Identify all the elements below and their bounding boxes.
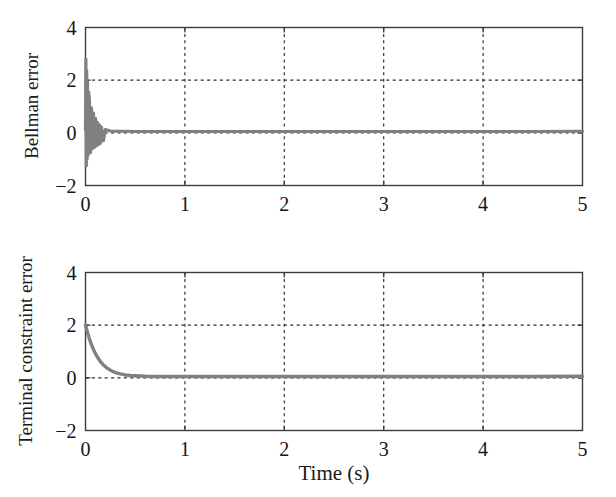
- bellman-gridlines: [86, 28, 583, 186]
- bellman-y-axis-label: Bellman error: [21, 52, 42, 159]
- terminal-x-tick-labels: 012345: [81, 438, 588, 460]
- x-tick-label: 4: [478, 193, 488, 215]
- x-tick-label: 0: [81, 438, 91, 460]
- terminal-gridlines: [86, 273, 583, 431]
- bellman-x-tick-labels: 012345: [81, 193, 588, 215]
- y-tick-label: −2: [55, 420, 76, 442]
- terminal-y-axis-label: Terminal constraint error: [15, 256, 36, 446]
- terminal-y-tick-labels: −2024: [55, 262, 76, 442]
- terminal-constraint-error-plot: 012345 −2024 Terminal constraint error T…: [15, 256, 588, 485]
- x-tick-label: 5: [578, 438, 588, 460]
- y-tick-label: 2: [67, 314, 77, 336]
- x-tick-label: 5: [578, 193, 588, 215]
- terminal-constraint-error-trace: [86, 325, 583, 376]
- y-tick-label: 0: [67, 122, 77, 144]
- bellman-tickmarks: [86, 28, 583, 186]
- bellman-y-tick-labels: −2024: [55, 17, 76, 197]
- x-tick-label: 1: [180, 193, 190, 215]
- bellman-error-trace: [86, 59, 583, 166]
- y-tick-label: 4: [67, 262, 77, 284]
- figure-container: 012345 −2024 Bellman error 012345 −2024 …: [0, 0, 616, 497]
- x-tick-label: 3: [379, 438, 389, 460]
- x-tick-label: 0: [81, 193, 91, 215]
- y-tick-label: 0: [67, 367, 77, 389]
- bellman-plot-frame: [86, 28, 583, 186]
- x-tick-label: 2: [279, 193, 289, 215]
- x-tick-label: 1: [180, 438, 190, 460]
- bellman-error-plot: 012345 −2024 Bellman error: [21, 17, 588, 215]
- y-tick-label: −2: [55, 175, 76, 197]
- terminal-tickmarks: [86, 273, 583, 431]
- y-tick-label: 4: [67, 17, 77, 39]
- chart-svg: 012345 −2024 Bellman error 012345 −2024 …: [0, 0, 616, 497]
- x-tick-label: 3: [379, 193, 389, 215]
- y-tick-label: 2: [67, 69, 77, 91]
- time-x-axis-label: Time (s): [299, 461, 370, 485]
- terminal-plot-frame: [86, 273, 583, 431]
- x-tick-label: 4: [478, 438, 488, 460]
- x-tick-label: 2: [279, 438, 289, 460]
